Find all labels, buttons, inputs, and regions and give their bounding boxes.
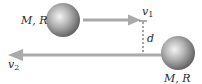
bottom-body-label: M, R	[163, 72, 191, 84]
diagram-canvas: M, R v1 d v2 M, R	[0, 0, 202, 84]
velocity-arrow-v1	[83, 15, 141, 26]
velocity-arrow-v2	[8, 49, 170, 61]
separation-label: d	[147, 32, 154, 45]
arrowhead-right-icon	[128, 15, 141, 26]
separation-marker	[139, 21, 147, 53]
v2-label: v2	[8, 58, 19, 72]
top-body-label: M, R	[20, 14, 48, 27]
top-sphere	[46, 3, 80, 37]
v1-label: v1	[142, 5, 153, 19]
bottom-sphere	[161, 36, 195, 70]
